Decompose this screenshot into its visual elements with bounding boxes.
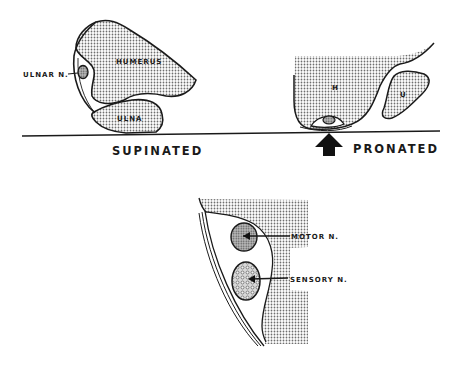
supinated-caption: SUPINATED	[112, 144, 203, 158]
ulnar-nerve-label: ULNAR N.	[23, 71, 69, 79]
ulnar-nerve	[78, 66, 88, 79]
nerve-cross-section: MOTOR N. SENSORY N.	[199, 198, 348, 346]
motor-fascicle	[231, 223, 257, 251]
sensory-fascicle	[232, 262, 260, 300]
pronated-view: H U	[294, 43, 434, 156]
h-label: H	[332, 84, 339, 92]
ulnar-nerve-compressed	[323, 116, 335, 124]
elbow-nerve-diagram: ULNAR N. HUMERUS ULNA SUPINATED H U PRON…	[0, 0, 463, 376]
motor-nerve-label: MOTOR N.	[291, 233, 339, 241]
supinated-view: ULNAR N. HUMERUS ULNA	[23, 20, 196, 133]
u-label: U	[400, 91, 407, 99]
sensory-nerve-label: SENSORY N.	[290, 276, 348, 284]
pressure-arrow-icon	[315, 133, 343, 156]
surface-line	[22, 131, 440, 136]
ulna-label: ULNA	[117, 115, 142, 123]
humerus-label: HUMERUS	[116, 58, 162, 66]
pronated-caption: PRONATED	[353, 142, 439, 156]
